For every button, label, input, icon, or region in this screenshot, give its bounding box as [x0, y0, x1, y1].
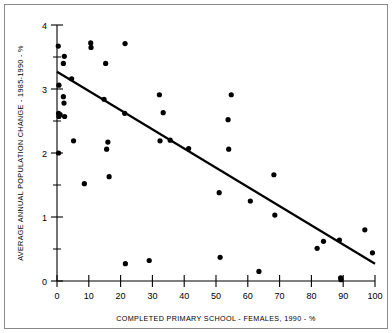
x-tick-label: 0	[54, 291, 59, 301]
data-point	[62, 54, 67, 59]
screenshot-root: 0 1 2 3 4 0	[0, 0, 392, 333]
data-point	[82, 181, 87, 186]
trend-line	[57, 72, 375, 264]
data-point	[88, 45, 93, 50]
data-points-layer	[56, 40, 375, 282]
data-point	[107, 174, 112, 179]
x-tick-label: 20	[116, 291, 126, 301]
data-point	[362, 227, 367, 232]
data-point	[104, 147, 109, 152]
x-tick-label: 60	[243, 291, 253, 301]
data-point	[62, 114, 67, 119]
data-point	[122, 41, 127, 46]
data-point	[161, 110, 166, 115]
x-axis-tick-labels: 0 10 20 30 40 50 60 70 80 90 100	[54, 291, 382, 301]
data-point	[229, 92, 234, 97]
data-point	[147, 258, 152, 263]
data-point	[157, 92, 162, 97]
y-tick-label: 3	[42, 85, 47, 95]
y-tick-label: 0	[42, 277, 47, 287]
y-tick-label: 2	[42, 149, 47, 159]
data-point	[256, 269, 261, 274]
data-point	[226, 147, 231, 152]
data-point	[56, 44, 61, 49]
data-point	[338, 277, 343, 282]
x-axis-title: COMPLETED PRIMARY SCHOOL - FEMALES, 1990…	[116, 314, 316, 323]
y-axis-title: AVERAGE ANNUAL POPULATION CHANGE - 1985-…	[16, 45, 25, 261]
figure-frame: 0 1 2 3 4 0	[4, 4, 388, 329]
scatter-chart: 0 1 2 3 4 0	[5, 5, 389, 330]
data-point	[157, 138, 162, 143]
data-point	[248, 198, 253, 203]
x-tick-label: 100	[367, 291, 382, 301]
data-point	[123, 261, 128, 266]
x-tick-label: 50	[211, 291, 221, 301]
x-tick-label: 40	[179, 291, 189, 301]
data-point	[315, 246, 320, 251]
data-point	[103, 61, 108, 66]
data-point	[88, 40, 93, 45]
x-tick-label: 10	[84, 291, 94, 301]
y-axis-tick-labels: 0 1 2 3 4	[42, 21, 47, 287]
data-point	[61, 100, 66, 105]
data-point	[61, 94, 66, 99]
data-point	[321, 239, 326, 244]
data-point	[217, 190, 222, 195]
y-tick-label: 1	[42, 213, 47, 223]
data-point	[272, 212, 277, 217]
data-point	[56, 83, 61, 88]
data-point	[61, 61, 66, 66]
data-point	[58, 112, 63, 117]
data-point	[218, 255, 223, 260]
data-point	[56, 150, 61, 155]
data-point	[271, 172, 276, 177]
data-point	[225, 117, 230, 122]
data-point	[370, 250, 375, 255]
data-point	[105, 140, 110, 145]
x-tick-label: 80	[306, 291, 316, 301]
y-tick-label: 4	[42, 21, 47, 31]
x-tick-label: 70	[275, 291, 285, 301]
x-tick-label: 30	[147, 291, 157, 301]
data-point	[71, 138, 76, 143]
x-tick-label: 90	[338, 291, 348, 301]
